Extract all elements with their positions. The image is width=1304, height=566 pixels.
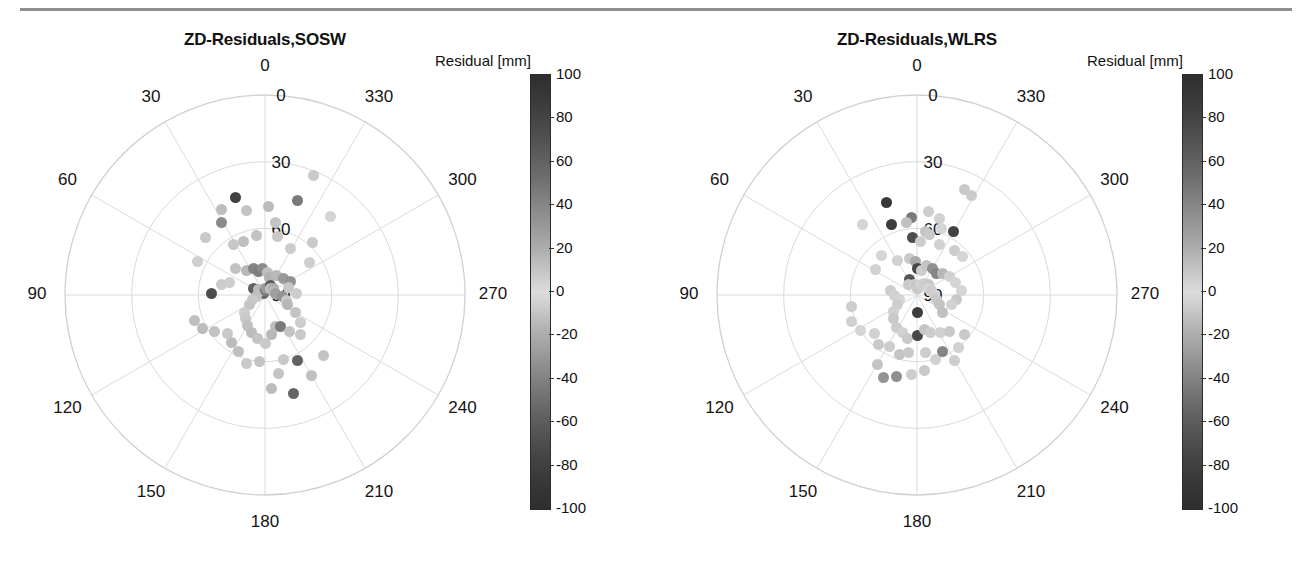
colorbar-tick-80: 80: [1208, 109, 1225, 124]
scatter-point: [230, 192, 241, 203]
colorbar-tick-80: 80: [556, 109, 573, 124]
colorbar-tick-neg20: -20: [1208, 326, 1230, 341]
scatter-point: [197, 323, 208, 334]
colorbar-label-sosw: Residual [mm]: [435, 52, 531, 69]
azimuth-label-330: 330: [365, 87, 393, 106]
colorbar-tickmark: [549, 291, 554, 292]
polar-grid-sosw: 03060901201501802102402703003300306090: [0, 0, 520, 566]
scatter-point: [308, 170, 319, 181]
colorbar-tick-neg40: -40: [556, 370, 578, 385]
azimuth-label-120: 120: [53, 398, 81, 417]
scatter-point: [291, 288, 302, 299]
scatter-point: [944, 326, 955, 337]
azimuth-label-0: 0: [260, 56, 269, 75]
colorbar-tickmark: [1201, 291, 1206, 292]
scatter-point: [192, 256, 203, 267]
colorbar-tickmark: [1201, 248, 1206, 249]
figure-page: ZD-Residuals,SOSW 0306090120150180210240…: [0, 0, 1304, 566]
scatter-point: [272, 231, 283, 242]
colorbar-tickmark: [549, 378, 554, 379]
azimuth-label-120: 120: [705, 398, 733, 417]
scatter-point: [292, 355, 303, 366]
azimuth-label-90: 90: [28, 284, 47, 303]
colorbar-tickmark: [1201, 117, 1206, 118]
scatter-point: [224, 277, 235, 288]
colorbar-tick-40: 40: [1208, 196, 1225, 211]
colorbar-gradient-sosw: [530, 74, 551, 510]
azimuth-label-180: 180: [251, 512, 279, 531]
azimuth-label-210: 210: [1017, 482, 1045, 501]
azimuth-label-270: 270: [1131, 284, 1159, 303]
polar-spoke: [917, 295, 1017, 468]
colorbar-tickmark: [549, 117, 554, 118]
polar-spoke: [817, 122, 917, 295]
colorbar-tick-neg100: -100: [556, 500, 586, 515]
azimuth-label-330: 330: [1017, 87, 1045, 106]
azimuth-label-0: 0: [912, 56, 921, 75]
scatter-point: [288, 388, 299, 399]
azimuth-label-150: 150: [137, 482, 165, 501]
polar-spoke: [744, 195, 917, 295]
colorbar-tick-60: 60: [1208, 153, 1225, 168]
scatter-point: [892, 255, 903, 266]
scatter-point: [870, 264, 881, 275]
colorbar-tick-100: 100: [1208, 66, 1233, 81]
scatter-point: [206, 288, 217, 299]
colorbar-tick-neg60: -60: [556, 413, 578, 428]
azimuth-label-60: 60: [58, 170, 77, 189]
scatter-point: [260, 338, 271, 349]
scatter-point: [846, 301, 857, 312]
scatter-point: [278, 354, 289, 365]
colorbar-tick-100: 100: [556, 66, 581, 81]
azimuth-label-300: 300: [448, 170, 476, 189]
scatter-point: [230, 263, 241, 274]
scatter-point: [189, 315, 200, 326]
colorbar-tickmark: [1201, 378, 1206, 379]
scatter-point: [884, 341, 895, 352]
polar-spoke: [817, 295, 917, 468]
colorbar-tick-neg40: -40: [1208, 370, 1230, 385]
scatter-point: [238, 236, 249, 247]
colorbar-tick-40: 40: [556, 196, 573, 211]
scatter-point: [266, 383, 277, 394]
scatter-point: [876, 250, 887, 261]
azimuth-label-300: 300: [1100, 170, 1128, 189]
scatter-point: [292, 195, 303, 206]
colorbar-tick-neg80: -80: [1208, 457, 1230, 472]
azimuth-label-180: 180: [903, 512, 931, 531]
colorbar-tickmark: [549, 161, 554, 162]
scatter-point: [886, 219, 897, 230]
azimuth-label-210: 210: [365, 482, 393, 501]
scatter-point: [295, 317, 306, 328]
colorbar-tickmark: [549, 334, 554, 335]
scatter-point: [881, 197, 892, 208]
scatter-point: [270, 217, 281, 228]
colorbar-tickmark: [1201, 465, 1206, 466]
colorbar-tick-20: 20: [556, 240, 573, 255]
radial-label-0: 0: [276, 86, 285, 105]
azimuth-label-60: 60: [710, 170, 729, 189]
colorbar-tickmark: [549, 204, 554, 205]
colorbar-tick-neg80: -80: [556, 457, 578, 472]
colorbar-tick-neg20: -20: [556, 326, 578, 341]
azimuth-label-30: 30: [794, 87, 813, 106]
azimuth-label-90: 90: [680, 284, 699, 303]
colorbar-tickmark: [1201, 421, 1206, 422]
azimuth-label-270: 270: [479, 284, 507, 303]
scatter-point: [924, 229, 935, 240]
colorbar-label-wlrs: Residual [mm]: [1087, 52, 1183, 69]
scatter-point: [254, 356, 265, 367]
scatter-point: [869, 328, 880, 339]
colorbar-tick-0: 0: [1208, 283, 1216, 298]
azimuth-label-30: 30: [142, 87, 161, 106]
colorbar-tick-neg100: -100: [1208, 500, 1238, 515]
radial-label-0: 0: [928, 86, 937, 105]
colorbar-tickmark: [549, 248, 554, 249]
colorbar-tick-0: 0: [556, 283, 564, 298]
colorbar-tickmark: [1201, 204, 1206, 205]
scatter-point: [263, 201, 274, 212]
colorbar-tick-20: 20: [1208, 240, 1225, 255]
scatter-point: [920, 347, 931, 358]
colorbar-tickmark: [549, 421, 554, 422]
scatter-point: [855, 325, 866, 336]
